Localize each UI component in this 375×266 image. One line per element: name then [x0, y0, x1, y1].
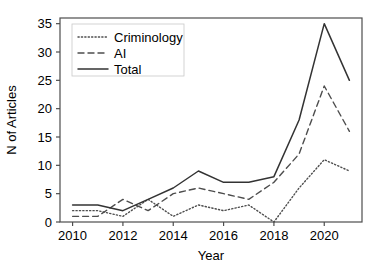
x-axis-title: Year — [198, 248, 225, 263]
x-tick-label: 2016 — [209, 228, 238, 243]
line-chart: 05101520253035201020122014201620182020Ye… — [0, 0, 375, 266]
y-tick-label: 25 — [38, 73, 52, 88]
x-tick-label: 2010 — [58, 228, 87, 243]
y-tick-label: 20 — [38, 101, 52, 116]
legend-label-criminology: Criminology — [114, 30, 183, 45]
x-tick-label: 2020 — [310, 228, 339, 243]
y-tick-label: 15 — [38, 130, 52, 145]
y-tick-label: 0 — [45, 215, 52, 230]
y-tick-label: 30 — [38, 45, 52, 60]
series-line-ai — [73, 86, 350, 216]
y-tick-label: 10 — [38, 158, 52, 173]
legend-label-ai: AI — [114, 46, 126, 61]
legend-label-total: Total — [114, 62, 142, 77]
y-tick-label: 35 — [38, 16, 52, 31]
y-tick-label: 5 — [45, 186, 52, 201]
x-tick-label: 2018 — [259, 228, 288, 243]
y-axis-title: N of Articles — [4, 85, 19, 155]
chart-container: 05101520253035201020122014201620182020Ye… — [0, 0, 375, 266]
x-tick-label: 2014 — [159, 228, 188, 243]
x-tick-label: 2012 — [108, 228, 137, 243]
